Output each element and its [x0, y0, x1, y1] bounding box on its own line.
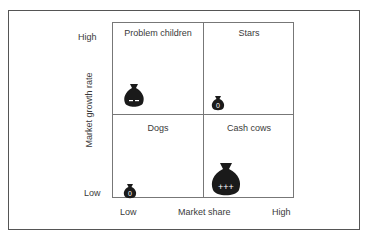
svg-text:+++: +++	[218, 182, 234, 192]
quadrant-label-stars: Stars	[204, 28, 294, 38]
y-axis-low-label: Low	[84, 188, 101, 198]
svg-text:0: 0	[128, 190, 132, 197]
money-bag-icon-large: +++	[210, 162, 242, 198]
x-axis-title: Market share	[178, 207, 231, 217]
quadrant-label-cash-cows: Cash cows	[204, 123, 294, 133]
quadrant-label-dogs: Dogs	[113, 123, 203, 133]
matrix-grid: Problem children Stars Dogs Cash cows 0 …	[112, 22, 294, 198]
horizontal-divider	[113, 114, 293, 115]
svg-text:0: 0	[216, 102, 220, 109]
quadrant-label-problem-children: Problem children	[113, 28, 203, 38]
y-axis-title: Market growth rate	[84, 72, 94, 147]
money-bag-icon-small: 0	[211, 95, 225, 111]
x-axis-high-label: High	[272, 207, 291, 217]
money-bag-icon-medium	[123, 83, 145, 109]
x-axis-low-label: Low	[120, 207, 137, 217]
money-bag-icon-small: 0	[123, 183, 137, 199]
y-axis-high-label: High	[78, 32, 97, 42]
vertical-divider	[203, 23, 204, 197]
